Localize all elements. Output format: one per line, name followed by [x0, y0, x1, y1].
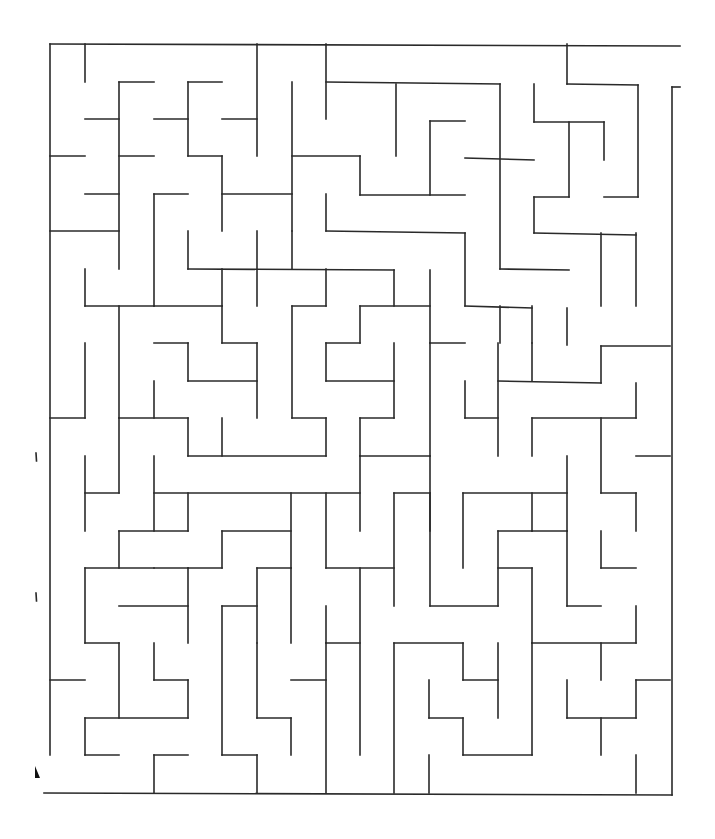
maze-wall	[465, 158, 534, 160]
maze-diagram	[0, 0, 715, 839]
entrance-arrow-icon	[35, 766, 40, 778]
maze-wall	[326, 231, 465, 233]
maze-markers	[35, 453, 40, 778]
maze-wall	[50, 44, 680, 46]
maze-walls	[44, 44, 680, 795]
maze-wall	[188, 269, 394, 270]
maze-wall	[44, 793, 672, 795]
tick-mark-icon	[36, 593, 37, 601]
maze-wall	[534, 233, 636, 235]
tick-mark-icon	[36, 453, 37, 461]
maze-wall	[567, 84, 638, 85]
maze-wall	[326, 82, 500, 84]
maze-wall	[498, 381, 601, 383]
maze-wall	[500, 269, 569, 270]
maze-wall	[465, 306, 532, 308]
